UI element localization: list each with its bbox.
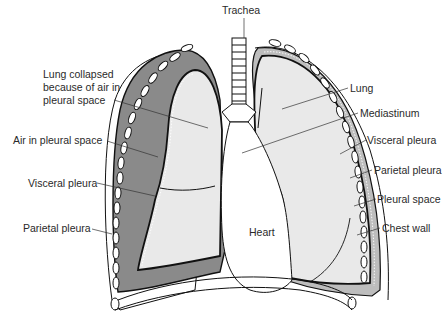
label-parietal-pleura-right: Parietal pleura (374, 164, 442, 177)
label-parietal-pleura-left: Parietal pleura (23, 222, 91, 235)
trachea (222, 38, 256, 122)
thorax-illustration (0, 0, 448, 325)
diaphragm-inner (115, 287, 352, 310)
label-trachea: Trachea (222, 4, 260, 17)
label-lung: Lung (350, 82, 373, 95)
label-lung-collapsed: Lung collapsed because of air in pleural… (43, 68, 123, 107)
label-mediastinum: Mediastinum (360, 107, 420, 120)
label-heart: Heart (249, 226, 275, 239)
label-chest-wall: Chest wall (382, 222, 430, 235)
label-air-in-pleural-space: Air in pleural space (13, 134, 102, 147)
label-pleural-space: Pleural space (377, 193, 441, 206)
label-visceral-pleura-left: Visceral pleura (28, 177, 97, 190)
label-visceral-pleura-right: Visceral pleura (367, 134, 436, 147)
pneumothorax-diagram: Trachea Lung collapsed because of air in… (0, 0, 448, 325)
